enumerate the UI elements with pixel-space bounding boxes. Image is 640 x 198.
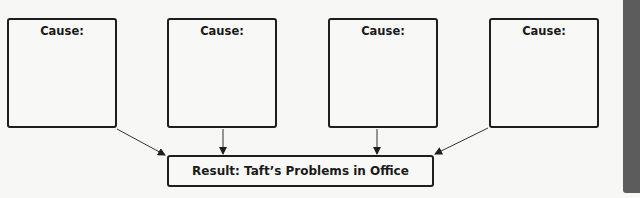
result-box[interactable]: Result: Taft’s Problems in Office bbox=[167, 155, 434, 187]
cause-effect-diagram: Cause: Cause: Cause: Cause: Result: Taft… bbox=[0, 0, 640, 198]
result-label: Result: Taft’s Problems in Office bbox=[192, 164, 409, 178]
arrow-1 bbox=[117, 129, 165, 155]
side-tab bbox=[623, 0, 640, 193]
arrow-4 bbox=[435, 128, 488, 154]
